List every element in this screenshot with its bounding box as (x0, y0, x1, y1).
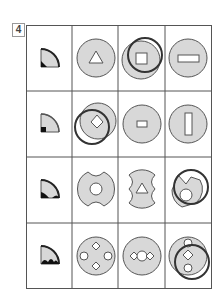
quarter-circle-key-icon (41, 49, 59, 67)
row-1 (41, 38, 207, 79)
circle-vrect-icon (169, 105, 207, 143)
circle-small-rect-icon (123, 105, 161, 143)
notched-disc-triangle-icon (129, 170, 155, 208)
row-2 (41, 103, 207, 144)
circle-square-ring-icon (122, 38, 162, 79)
circle-diamond-ring-icon (75, 103, 116, 144)
circle-cross-pattern-icon (77, 237, 115, 275)
row-4 (41, 237, 209, 279)
quarter-circle-key-icon (41, 180, 59, 198)
quarter-circle-key-icon (41, 114, 59, 132)
row-3 (41, 170, 208, 208)
puzzle-drawing (0, 0, 223, 306)
circle-hrect-icon (169, 39, 207, 77)
notched-disc-ring-icon (172, 170, 208, 207)
notched-disc-circle-icon (77, 171, 114, 206)
circle-row-pattern-icon (123, 237, 161, 275)
quarter-circle-key-icon (41, 246, 59, 264)
circle-triangle-icon (77, 39, 115, 77)
circle-column-pattern-ring-icon (169, 237, 209, 279)
